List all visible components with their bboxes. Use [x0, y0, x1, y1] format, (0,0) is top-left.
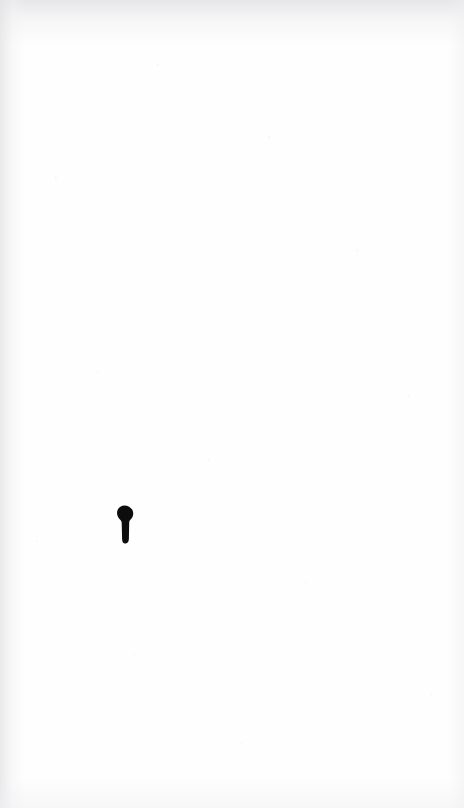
paper-grain-texture — [0, 0, 464, 808]
scanned-page — [0, 0, 464, 808]
